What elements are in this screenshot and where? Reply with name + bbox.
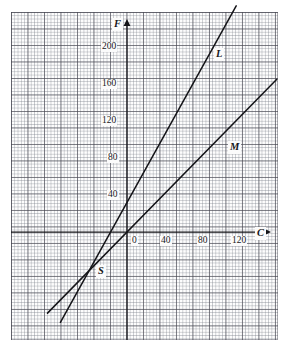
x-tick-label-0: 0 [131, 236, 138, 246]
line-m-label: M [228, 141, 241, 154]
line-l-label: L [214, 48, 224, 61]
x-tick-label-120: 120 [231, 236, 247, 246]
y-axis-label: F [112, 18, 123, 31]
x-tick-label-80: 80 [197, 236, 209, 246]
graph-figure: F C 200 160 120 80 40 0 40 80 120 L M S [0, 0, 291, 354]
y-axis-arrow-icon [124, 19, 131, 26]
y-tick-label-200: 200 [101, 42, 117, 52]
plot-overlay [0, 0, 291, 354]
y-tick-label-40: 40 [107, 190, 119, 200]
y-tick-label-80: 80 [107, 153, 119, 163]
y-axis [124, 19, 131, 340]
x-axis-label: C [255, 227, 266, 240]
line-l-series [60, 6, 236, 322]
line-m-series [48, 79, 277, 313]
point-s-label: S [96, 265, 106, 278]
y-tick-label-160: 160 [101, 79, 117, 89]
y-tick-label-120: 120 [101, 116, 117, 126]
x-tick-label-40: 40 [160, 236, 172, 246]
